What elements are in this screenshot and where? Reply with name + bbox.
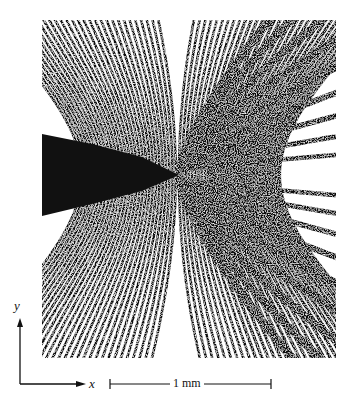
x-axis-label: x [89, 376, 95, 392]
y-axis-label: y [14, 298, 20, 314]
fringe-pattern-svg [42, 20, 336, 358]
x-axis-arrow-icon [19, 378, 87, 390]
scale-bar-label: 1 mm [170, 376, 204, 391]
fringe-pattern-image [42, 20, 336, 358]
